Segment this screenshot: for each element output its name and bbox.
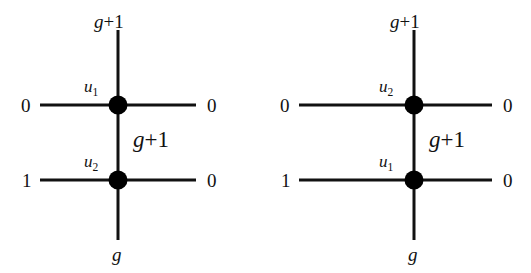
node-bottom bbox=[405, 171, 424, 190]
node-label-top: u2 bbox=[379, 78, 393, 98]
right-edges bbox=[266, 0, 531, 273]
label-middle-stem: g+1 bbox=[133, 128, 169, 151]
node-top bbox=[109, 96, 128, 115]
label-bottom-left-terminal: 1 bbox=[22, 171, 32, 190]
label-bottom-stem: g bbox=[408, 245, 418, 264]
node-top bbox=[405, 96, 424, 115]
node-bottom bbox=[109, 171, 128, 190]
label-top-right-terminal: 0 bbox=[503, 96, 513, 115]
node-label-bottom: u1 bbox=[379, 153, 393, 173]
node-label-top: u1 bbox=[84, 78, 98, 98]
label-top-left-terminal: 0 bbox=[280, 96, 290, 115]
label-top-right-terminal: 0 bbox=[207, 96, 217, 115]
label-bottom-stem: g bbox=[112, 245, 122, 264]
label-bottom-left-terminal: 1 bbox=[281, 171, 291, 190]
node-label-bottom: u2 bbox=[84, 153, 98, 173]
label-top-left-terminal: 0 bbox=[21, 96, 31, 115]
label-middle-stem: g+1 bbox=[429, 128, 465, 151]
label-top-stem: g+1 bbox=[94, 12, 124, 31]
label-bottom-right-terminal: 0 bbox=[503, 171, 513, 190]
diagram-right: g+1 u2 0 0 g+1 u1 1 0 g bbox=[266, 0, 531, 273]
label-top-stem: g+1 bbox=[390, 12, 420, 31]
label-bottom-right-terminal: 0 bbox=[207, 171, 217, 190]
diagram-left: g+1 u1 0 0 g+1 u2 1 0 g bbox=[0, 0, 265, 273]
figure-canvas: g+1 u1 0 0 g+1 u2 1 0 g bbox=[0, 0, 531, 273]
